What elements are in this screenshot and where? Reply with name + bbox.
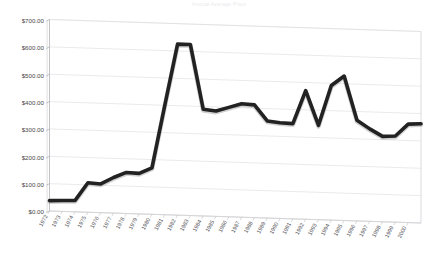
x-axis-label: 1995 <box>332 223 343 237</box>
x-axis-label: 1975 <box>76 215 87 229</box>
x-axis-label: 1977 <box>102 216 113 230</box>
line-chart: $0.00$100.00$200.00$300.00$400.00$500.00… <box>0 0 438 275</box>
x-axis-label: 1976 <box>89 215 100 229</box>
x-axis-label: 1991 <box>281 222 292 236</box>
x-axis-label: 1974 <box>63 214 74 228</box>
x-axis-label: 1983 <box>179 218 190 232</box>
y-axis-label: $200.00 <box>22 154 45 161</box>
x-axis-label: 1989 <box>255 221 266 235</box>
y-axis-label: $500.00 <box>22 72 45 79</box>
x-axis-label: 1981 <box>153 217 164 231</box>
chart-walls <box>47 20 421 224</box>
y-axis-label: $400.00 <box>22 99 45 106</box>
x-axis-label: 1984 <box>191 219 202 233</box>
x-axis-label: 1982 <box>166 218 177 232</box>
x-axis-label: 1979 <box>127 217 138 231</box>
y-axis-label: $100.00 <box>22 181 45 188</box>
x-axis-label: 1972 <box>38 214 49 228</box>
x-axis-label: 1986 <box>217 219 228 233</box>
x-axis-label: 1985 <box>204 219 215 233</box>
x-axis-label: 1992 <box>294 222 305 236</box>
x-axis-label: 2000 <box>396 225 407 239</box>
x-axis-label: 1999 <box>384 225 395 239</box>
x-axis-label: 1978 <box>115 216 126 230</box>
x-axis-label: 1997 <box>358 224 369 238</box>
x-axis-label: 1988 <box>243 220 254 234</box>
y-axis-labels: $0.00$100.00$200.00$300.00$400.00$500.00… <box>22 17 45 216</box>
x-axis-label: 1980 <box>140 217 151 231</box>
y-axis-label: $600.00 <box>22 44 45 51</box>
chart-container: Annual Average Price $0.00$100.00$200.00… <box>0 0 438 275</box>
x-axis-label: 1998 <box>371 224 382 238</box>
y-axis-label: $700.00 <box>22 17 45 24</box>
x-axis-label: 1996 <box>345 224 356 238</box>
x-axis-label: 1993 <box>307 222 318 236</box>
x-axis-label: 1990 <box>268 221 279 235</box>
x-axis-label: 1973 <box>50 214 61 228</box>
x-axis-label: 1994 <box>319 223 330 237</box>
y-axis-label: $300.00 <box>22 126 45 133</box>
x-axis-label: 1987 <box>230 220 241 234</box>
